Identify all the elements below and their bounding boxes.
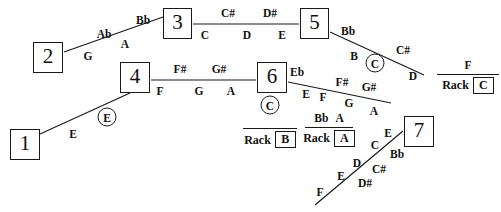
note-label: F#: [336, 77, 349, 89]
note-label: E: [278, 30, 286, 42]
note-label: Bb: [390, 149, 404, 161]
node-box-3[interactable]: 3: [163, 8, 192, 39]
node-box-6[interactable]: 6: [257, 62, 287, 93]
note-label: A: [370, 106, 378, 118]
rack-group-c: FRackC: [437, 60, 499, 94]
rack-numerator-note: F: [464, 60, 471, 72]
note-label: F: [319, 92, 326, 104]
note-label: D: [243, 30, 251, 42]
note-label: C: [371, 140, 379, 152]
note-label: A: [227, 86, 235, 98]
note-label: C#: [221, 8, 235, 20]
rack-letter-box-c[interactable]: C: [473, 77, 494, 94]
node-box-5[interactable]: 5: [300, 8, 329, 39]
node-box-7[interactable]: 7: [404, 116, 434, 147]
note-label: D: [409, 71, 417, 83]
note-label: B: [350, 51, 358, 63]
node-box-1[interactable]: 1: [10, 129, 40, 160]
note-label: E: [69, 129, 77, 141]
note-label: G: [195, 86, 204, 98]
note-label: G#: [362, 82, 377, 94]
note-label: G#: [212, 64, 227, 76]
rack-numerator: BbA: [314, 113, 343, 127]
node-box-4[interactable]: 4: [120, 62, 150, 93]
circled-note-c: C: [366, 54, 385, 73]
rack-word: Rack: [442, 79, 469, 91]
rack-denominator: RackB: [244, 129, 296, 148]
rack-numerator-note: Bb: [314, 113, 328, 125]
rack-letter-box-a[interactable]: A: [334, 130, 355, 147]
note-label: C#: [372, 164, 386, 176]
node-box-2[interactable]: 2: [33, 42, 63, 73]
note-label: F#: [174, 64, 187, 76]
note-label: D#: [263, 8, 277, 20]
note-label: G: [345, 98, 354, 110]
note-label: Bb: [341, 26, 355, 38]
rack-word: Rack: [244, 134, 271, 146]
note-label: G: [84, 51, 93, 63]
rack-denominator: RackA: [303, 128, 355, 147]
note-label: C: [201, 30, 209, 42]
note-label: E: [337, 171, 345, 183]
note-label: Eb: [290, 67, 304, 79]
rack-group-b: RackB: [243, 114, 297, 148]
circled-note-e: E: [98, 108, 117, 127]
note-label: E: [302, 89, 310, 101]
rack-group-a: BbARackA: [305, 113, 353, 147]
note-label: Bb: [136, 15, 150, 27]
note-label: A: [121, 39, 129, 51]
note-label: C#: [396, 45, 410, 57]
rack-letter-box-b[interactable]: B: [275, 131, 296, 148]
note-label: Ab: [97, 29, 112, 41]
note-label: E: [384, 128, 392, 140]
rack-numerator: F: [464, 60, 471, 74]
rack-numerator-note: A: [335, 113, 343, 125]
note-label: D: [353, 158, 361, 170]
diagram-canvas: 1234567 AbBbGAC#D#CDEBbC#BDF#G#FGAEbF#G#…: [0, 0, 501, 212]
rack-word: Rack: [303, 132, 330, 144]
edge-line: [40, 93, 130, 134]
note-label: F: [156, 86, 163, 98]
circled-note-c: C: [261, 96, 280, 115]
note-label: D#: [358, 178, 372, 190]
note-label: F: [316, 187, 323, 199]
rack-denominator: RackC: [442, 75, 494, 94]
